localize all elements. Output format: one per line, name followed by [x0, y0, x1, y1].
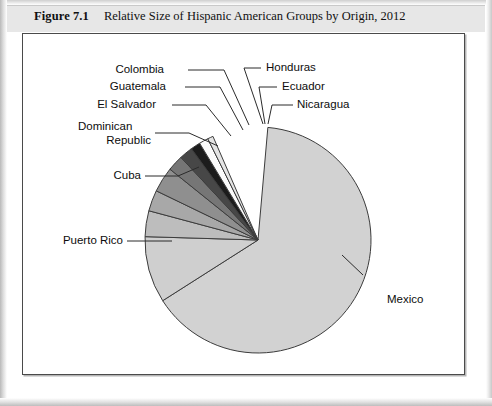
callout-label-dominican-republic: Dominican Republic [78, 119, 151, 147]
callout-label-guatemala: Guatemala [96, 80, 166, 94]
leader-line-colombia [188, 70, 249, 125]
pie-slices [145, 127, 371, 353]
scan-edge-left [0, 0, 7, 406]
callout-label-colombia: Colombia [108, 63, 164, 77]
page-background: Figure 7.1Relative Size of Hispanic Amer… [0, 0, 492, 406]
callout-label-puerto-rico: Puerto Rico [61, 234, 123, 248]
figure-caption: Figure 7.1Relative Size of Hispanic Amer… [34, 9, 406, 24]
callout-label-honduras: Honduras [266, 61, 316, 75]
callout-label-ecuador: Ecuador [282, 80, 325, 94]
pie-chart [22, 33, 465, 375]
callout-label-dominican-republic-line2: Republic [78, 133, 151, 147]
scan-edge-bottom [0, 398, 492, 406]
callout-label-cuba: Cuba [105, 169, 141, 183]
scan-edge-right [486, 0, 492, 406]
leader-line-nicaragua [268, 105, 293, 124]
figure-number: Figure 7.1 [34, 9, 89, 23]
callout-label-nicaragua: Nicaragua [297, 98, 349, 112]
callout-label-mexico: Mexico [387, 293, 423, 307]
leader-line-el-salvador [172, 105, 231, 136]
callout-label-el-salvador: El Salvador [86, 98, 156, 112]
callout-label-dominican-republic-line1: Dominican [78, 119, 151, 133]
figure-title: Relative Size of Hispanic American Group… [104, 9, 406, 23]
